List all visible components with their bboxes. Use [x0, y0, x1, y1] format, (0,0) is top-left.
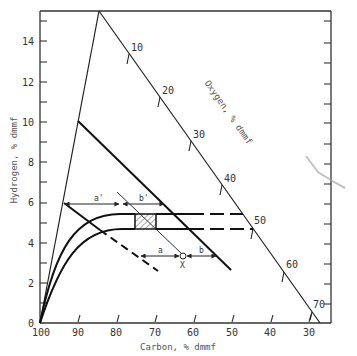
y-tick-labels: 0 2 4 6 8 10 12 14: [22, 36, 34, 329]
hydrogen-limit-line: [40, 11, 99, 323]
x-axis-ticks: [78, 315, 311, 322]
point-x-marker: [180, 253, 186, 259]
x-tick-labels: 100 90 80 70 60 50 40 30: [32, 327, 315, 338]
y-axis-title: Hydrogen, % dmmf: [9, 117, 19, 204]
oxygen-axis-title: Oxygen, % dmmf: [203, 78, 255, 146]
oxygen-tick-60: 60: [286, 259, 298, 270]
x-tick-50: 50: [226, 327, 238, 338]
coal-composition-diagram: 0 2 4 6 8 10 12 14 100 90 80 70 60 50 40…: [0, 0, 357, 356]
oxygen-tick-40: 40: [224, 173, 236, 184]
b-label: b: [199, 246, 204, 255]
oxygen-tick-50: 50: [254, 215, 266, 226]
y-axis-ticks: [40, 21, 47, 303]
oxygen-tick-70: 70: [313, 299, 325, 310]
x-tick-30: 30: [303, 327, 315, 338]
x-tick-100: 100: [32, 327, 50, 338]
y-tick-10: 10: [22, 117, 34, 128]
y-tick-6: 6: [28, 197, 34, 208]
y-tick-2: 2: [28, 278, 34, 289]
x-tick-80: 80: [110, 327, 122, 338]
right-axis-ticks: [324, 21, 331, 304]
ternary-boundary: [40, 11, 320, 323]
x-tick-90: 90: [72, 327, 84, 338]
x-axis-title: Carbon, % dmmf: [140, 342, 216, 352]
y-tick-12: 12: [22, 77, 34, 88]
hatched-region: [135, 214, 156, 229]
oxygen-scale-line: [99, 11, 320, 323]
upper-curve: [40, 214, 135, 323]
y-tick-4: 4: [28, 238, 34, 249]
x-tick-40: 40: [264, 327, 276, 338]
x-tick-60: 60: [187, 327, 199, 338]
scan-artifact: [306, 156, 345, 188]
a-prime-label: a': [94, 194, 104, 203]
oxygen-tick-20: 20: [162, 85, 174, 96]
y-tick-14: 14: [22, 36, 34, 47]
oxygen-tick-labels: 10 20 30 40 50 60 70: [131, 42, 325, 310]
diagonal-dashed-line: [100, 230, 158, 271]
point-x-label: X: [180, 261, 185, 270]
oxygen-tick-10: 10: [131, 42, 143, 53]
oxygen-tick-30: 30: [193, 129, 205, 140]
x-tick-70: 70: [149, 327, 161, 338]
b-prime-label: b': [139, 194, 149, 203]
lower-curve: [40, 229, 135, 323]
y-tick-8: 8: [28, 157, 34, 168]
a-label: a: [158, 246, 163, 255]
